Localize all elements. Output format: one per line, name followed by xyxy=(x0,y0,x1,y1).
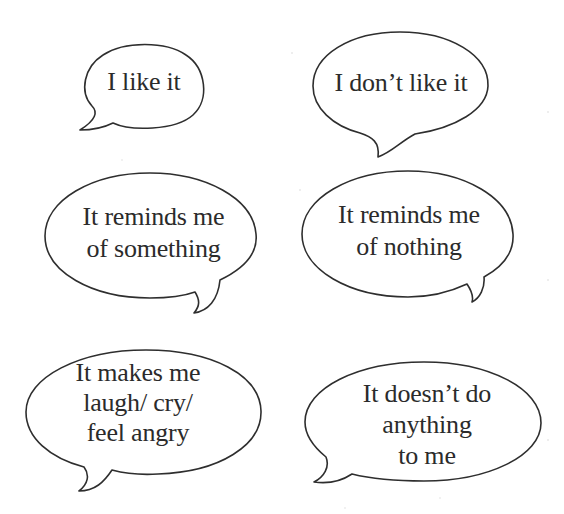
bubble-text-line: laugh/ cry/ xyxy=(38,388,238,418)
bubble-text-line: anything xyxy=(327,409,527,440)
bubble-text-line: I don’t like it xyxy=(313,67,489,99)
bubble-text-line: of something xyxy=(50,233,257,265)
bubble-text-line: It reminds me xyxy=(50,201,257,233)
bubble-text-line: It reminds me xyxy=(305,199,513,231)
bubble-text-line: It makes me xyxy=(38,358,238,388)
bubble-text-line: to me xyxy=(327,440,527,471)
speech-bubble-dislike: I don’t like it xyxy=(313,67,489,99)
bubble-text-line: I like it xyxy=(83,66,205,98)
speech-bubble-reminds-something: It reminds me of something xyxy=(50,201,257,265)
bubble-text-line: feel angry xyxy=(38,418,238,448)
speech-bubble-makes-me-feel: It makes me laugh/ cry/ feel angry xyxy=(38,358,238,448)
speech-bubble-like: I like it xyxy=(83,66,205,98)
bubble-text-line: It doesn’t do xyxy=(327,378,527,409)
bubble-text-line: of nothing xyxy=(305,231,513,263)
speech-bubble-does-nothing: It doesn’t do anything to me xyxy=(327,378,527,471)
speech-bubbles-sheet: I like it I don’t like it It reminds me … xyxy=(0,0,564,514)
speech-bubble-reminds-nothing: It reminds me of nothing xyxy=(305,199,513,263)
